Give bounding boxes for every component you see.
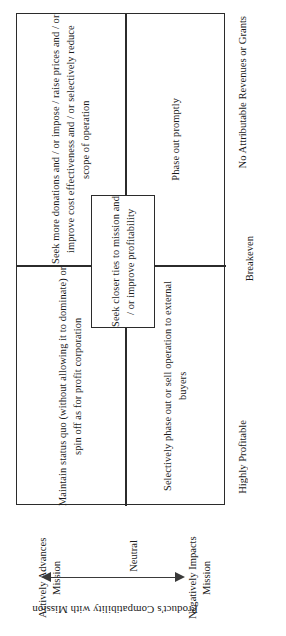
- axis-label-no-attributable-revenues: No Attributable Revenues or Grants: [236, 16, 282, 168]
- arrow-left-icon: [41, 572, 51, 582]
- center-box: Seek closer ties to mission and / or imp…: [91, 195, 155, 328]
- quadrant-bottom-right-text: Selectively phase out or sell operation …: [161, 266, 191, 506]
- quadrant-bottom-left-text: Maintain status quo (without allowing it…: [56, 266, 86, 506]
- axis-arrow-line: [50, 577, 176, 578]
- axis-label-breakeven: Breakeven: [243, 236, 273, 281]
- axis-label-neutral: Neutral: [128, 540, 144, 572]
- quadrant-top-right-text: Phase out promptly: [169, 98, 184, 181]
- quadrant-top-left-text: Seek more donations and / or impose / ra…: [49, 14, 93, 265]
- center-box-text: Seek closer ties to mission and / or imp…: [108, 196, 138, 327]
- axis-label-highly-profitable: Highly Profitable: [236, 420, 282, 494]
- axis-label-negatively-impacts-mission: Negatively Impacts Mission: [186, 520, 232, 636]
- mission-compatibility-axis: Actively Advances Mission Neutral Negati…: [0, 512, 286, 636]
- mission-axis-title: Product's Compatibility with Mission: [0, 604, 230, 616]
- arrow-right-icon: [175, 572, 185, 582]
